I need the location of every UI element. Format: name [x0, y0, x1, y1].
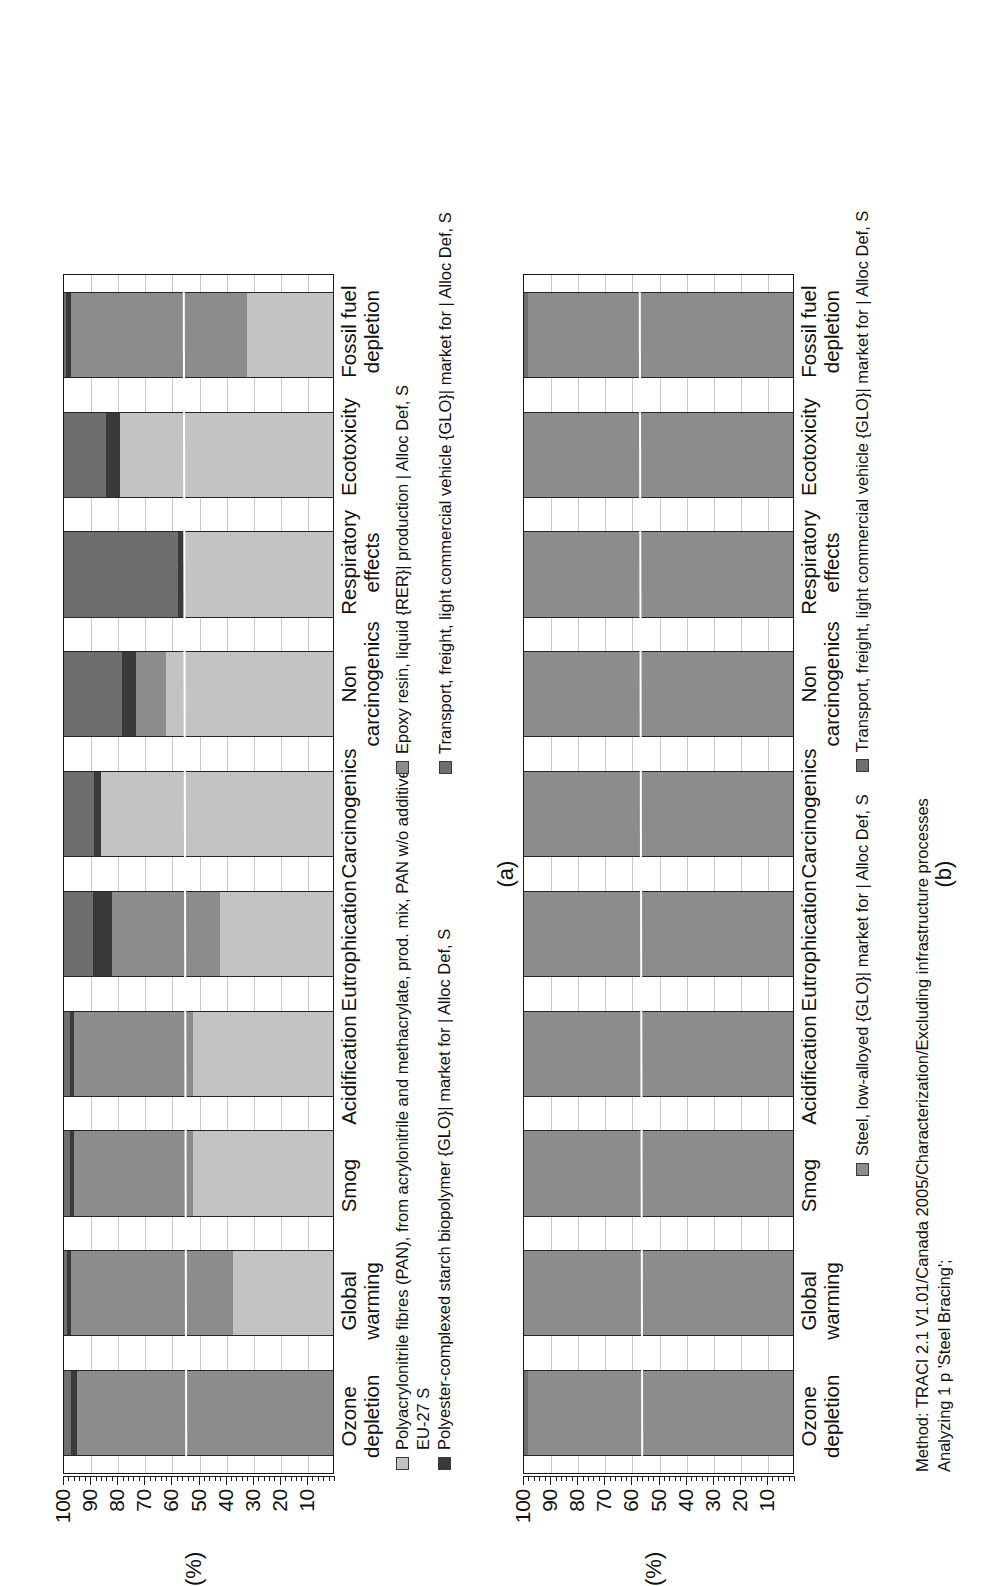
axis-minor-tick	[274, 1476, 275, 1481]
stacked-bar[interactable]	[63, 531, 333, 617]
stacked-bar[interactable]	[63, 651, 333, 737]
bar-segment[interactable]	[71, 1251, 233, 1335]
bar-segment[interactable]	[220, 892, 333, 976]
axis-tick-mark	[63, 1476, 64, 1485]
bar-segment[interactable]	[193, 1131, 333, 1215]
bar-segment[interactable]	[233, 1251, 333, 1335]
bar-segment[interactable]	[63, 772, 94, 856]
stacked-bar[interactable]	[63, 412, 333, 498]
bar-segment[interactable]	[523, 1012, 793, 1096]
stacked-bar[interactable]	[63, 891, 333, 977]
axis-tick-label: 70	[132, 1489, 156, 1512]
bar-segment[interactable]	[77, 1371, 334, 1455]
bar-segment[interactable]	[74, 1131, 193, 1215]
bar-segment[interactable]	[94, 772, 101, 856]
legend-swatch-near-black-icon	[438, 1457, 451, 1470]
bar-segment[interactable]	[74, 1012, 193, 1096]
category-label: Ozonedepletion	[338, 1359, 384, 1474]
stacked-bar[interactable]	[63, 771, 333, 857]
method-note: Method: TRACI 2.1 V1.01/Canada 2005/Char…	[912, 798, 956, 1472]
stacked-bar[interactable]	[63, 1011, 333, 1097]
axis-minor-tick	[588, 1476, 589, 1481]
axis-minor-tick	[323, 1476, 324, 1481]
category-label: Acidification	[798, 1012, 844, 1127]
bar-segment[interactable]	[63, 532, 178, 616]
bar-segment[interactable]	[63, 652, 122, 736]
stacked-bar[interactable]	[523, 531, 793, 617]
bar-segment[interactable]	[63, 1371, 71, 1455]
bar-segment[interactable]	[120, 413, 333, 497]
axis-tick-label: 90	[78, 1489, 102, 1512]
axis-minor-tick	[231, 1476, 232, 1481]
stacked-bar[interactable]	[523, 412, 793, 498]
bar-segment[interactable]	[136, 652, 166, 736]
axis-minor-tick	[85, 1476, 86, 1481]
bar-segment[interactable]	[523, 1131, 793, 1215]
bar-segment[interactable]	[528, 293, 793, 377]
stacked-bar[interactable]	[63, 1370, 333, 1456]
legend-item: Polyacrylonitrile fibres (PAN), from acr…	[393, 761, 412, 1470]
bar-segment[interactable]	[523, 1251, 793, 1335]
stacked-bar[interactable]	[523, 1130, 793, 1216]
bar-slot	[524, 1233, 793, 1353]
legend-label: Steel, low-alloyed {GLO}| market for | A…	[853, 794, 872, 1156]
category-label: Respiratoryeffects	[798, 505, 844, 620]
stacked-bar[interactable]	[63, 1130, 333, 1216]
legend-label: Polyacrylonitrile fibres (PAN), from acr…	[393, 761, 412, 1450]
axis-minor-tick	[556, 1476, 557, 1481]
bar-segment[interactable]	[112, 892, 220, 976]
stacked-bar[interactable]	[523, 292, 793, 378]
bar-segment[interactable]	[106, 413, 120, 497]
axis-minor-tick	[593, 1476, 594, 1481]
plot-area-a	[63, 274, 334, 1474]
bar-segment[interactable]	[523, 892, 793, 976]
bar-segment[interactable]	[193, 1012, 333, 1096]
bar-segment[interactable]	[63, 892, 93, 976]
bar-segment[interactable]	[523, 652, 793, 736]
bar-slot	[524, 395, 793, 515]
bar-segment[interactable]	[185, 532, 334, 616]
axis-tick-mark	[740, 1476, 741, 1485]
axis-minor-tick	[761, 1476, 762, 1481]
bar-segment[interactable]	[63, 1012, 70, 1096]
stacked-bar[interactable]	[523, 891, 793, 977]
bar-slot	[524, 275, 793, 395]
bar-segment[interactable]	[63, 1131, 70, 1215]
axis-tick-label: 30	[701, 1489, 725, 1512]
bar-segment[interactable]	[178, 532, 185, 616]
bar-segment[interactable]	[528, 1371, 793, 1455]
bar-segment[interactable]	[166, 652, 333, 736]
axis-minor-tick	[718, 1476, 719, 1481]
category-label: Globalwarming	[798, 1243, 844, 1358]
stacked-bar[interactable]	[63, 1250, 333, 1336]
stacked-bar[interactable]	[523, 1011, 793, 1097]
bar-segment[interactable]	[122, 652, 136, 736]
axis-tick-mark	[307, 1476, 308, 1485]
stacked-bar[interactable]	[523, 651, 793, 737]
axis-minor-tick	[236, 1476, 237, 1481]
axis-tick-label: 10	[755, 1489, 779, 1512]
bar-segment[interactable]	[523, 413, 793, 497]
bar-segment[interactable]	[101, 772, 333, 856]
bar-segment[interactable]	[247, 293, 333, 377]
stacked-bar[interactable]	[63, 292, 333, 378]
bar-slot	[524, 634, 793, 754]
bar-slot	[64, 754, 333, 874]
stacked-bar[interactable]	[523, 1370, 793, 1456]
axis-minor-tick	[128, 1476, 129, 1481]
axis-minor-tick	[285, 1476, 286, 1481]
axis-tick-mark	[604, 1476, 605, 1485]
stacked-bar[interactable]	[523, 771, 793, 857]
bar-segment[interactable]	[523, 532, 793, 616]
axis-minor-tick	[296, 1476, 297, 1481]
axis-minor-tick	[220, 1476, 221, 1481]
stacked-bar[interactable]	[523, 1250, 793, 1336]
axis-minor-tick	[155, 1476, 156, 1481]
bar-segment[interactable]	[63, 413, 106, 497]
axis-minor-tick	[729, 1476, 730, 1481]
axis-minor-tick	[696, 1476, 697, 1481]
bar-segment[interactable]	[93, 892, 112, 976]
bar-segment[interactable]	[523, 772, 793, 856]
bar-segment[interactable]	[71, 293, 247, 377]
